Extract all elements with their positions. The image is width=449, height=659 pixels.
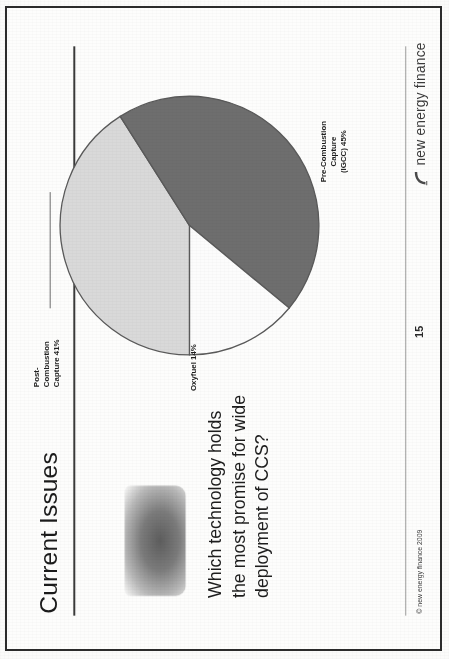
pie-label-pre-line-3: (IGCC) 45% [339,120,349,181]
pie-label-pre-line-1: Pre-Combustion [319,120,329,181]
pie-label-post-line-2: Combustion [42,339,52,387]
scanned-page: Current Issues Which technology holds th… [0,0,449,659]
nef-swoosh-icon [412,169,427,186]
brand-logo: new energy finance [412,42,428,186]
pie-label-pre-combustion: Pre-Combustion Capture (IGCC) 45% [319,120,349,181]
pie-label-post-line-3: Capture 41% [52,339,62,387]
pie-label-post-line-1: Post- [31,339,41,387]
pie-label-oxyfuel: Oxyfuel 14% [189,344,199,391]
pie-chart: Post- Combustion Capture 41% Oxyfuel 14%… [24,26,381,392]
slide: Current Issues Which technology holds th… [18,20,432,639]
copyright-notice: © new energy finance 2009 [416,529,423,613]
question-callout: Which technology holds the most promise … [124,391,274,598]
pie-label-oxyfuel-line-1: Oxyfuel 14% [189,344,199,391]
footer-divider [405,46,406,615]
cloud-blob-shape-icon [124,485,185,595]
pie-svg [57,93,321,357]
callout-line-2: the most promise for wide [227,391,251,598]
leader-line-post-combustion [49,192,50,308]
callout-text: Which technology holds the most promise … [203,391,274,598]
callout-line-3: deployment of CCS? [250,391,274,598]
brand-name: new energy finance [412,42,428,165]
pie-label-pre-line-2: Capture [329,120,339,181]
rotated-slide-container: Current Issues Which technology holds th… [18,20,432,639]
pie-label-post-combustion: Post- Combustion Capture 41% [31,339,61,387]
page-number: 15 [413,325,425,337]
callout-line-1: Which technology holds [203,391,227,598]
pie-graphic [57,93,321,357]
page-title: Current Issues [33,452,62,614]
